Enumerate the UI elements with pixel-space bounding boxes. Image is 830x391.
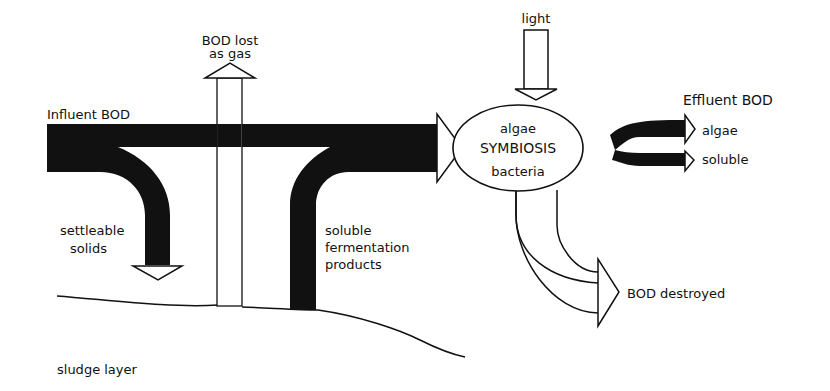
effluent-label: Effluent BOD [683, 92, 773, 108]
effluent-algae-label: algae [702, 123, 738, 138]
effluent-soluble-tube [612, 150, 685, 166]
settleable-arrowhead [133, 266, 182, 280]
gas-label-line2: as gas [209, 46, 251, 61]
sludge-layer-label: sludge layer [57, 362, 138, 377]
light-arrow-shaft [524, 30, 548, 89]
symbiosis-bottom-label: bacteria [491, 164, 544, 179]
settleable-label-line1: settleable [60, 223, 124, 238]
gas-arrowhead [205, 63, 255, 78]
symbiosis-mid-label: SYMBIOSIS [480, 140, 556, 156]
effluent-algae-arrowhead [685, 115, 695, 143]
gas-tube [217, 78, 242, 306]
effluent-algae-tube [610, 120, 685, 150]
light-label: light [522, 11, 551, 26]
bod-flow-diagram: Influent BOD BOD lost as gas light Efflu… [0, 0, 830, 391]
influent-label: Influent BOD [47, 107, 130, 122]
fermentation-label-line2: fermentation [325, 240, 410, 255]
effluent-soluble-label: soluble [702, 152, 748, 167]
sludge-surface-line [57, 296, 465, 357]
fermentation-label-line1: soluble [325, 223, 371, 238]
light-arrowhead [515, 89, 557, 100]
bod-destroyed-label: BOD destroyed [627, 286, 725, 301]
bod-destroyed-arrowhead [598, 259, 619, 326]
settleable-label-line2: solids [70, 241, 107, 256]
symbiosis-top-label: algae [500, 121, 536, 136]
effluent-soluble-arrowhead [685, 151, 694, 171]
fermentation-label-line3: products [325, 257, 382, 272]
bod-destroyed-tube [516, 190, 598, 283]
